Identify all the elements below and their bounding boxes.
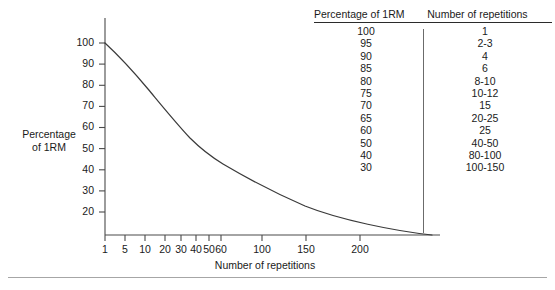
- table-column-divider: [423, 29, 424, 233]
- y-axis-title: Percentage of 1RM: [10, 128, 88, 153]
- y-tick-label-30: 30: [68, 185, 94, 196]
- figure-1rm-repetitions: 100 90 80 70 60 50 40 30 20 1 5 10 20 30…: [0, 0, 555, 290]
- cell-repetitions: 15: [418, 99, 552, 111]
- y-tick-label-90: 90: [68, 58, 94, 69]
- y-tick-marks: [99, 43, 105, 212]
- cell-percentage: 50: [314, 137, 418, 149]
- y-axis-title-line-2: of 1RM: [10, 141, 88, 154]
- table-row: 50 40-50: [314, 137, 552, 149]
- table-row: 40 80-100: [314, 149, 552, 161]
- x-tick-label-60: 60: [206, 244, 236, 255]
- table-row: 85 6: [314, 62, 552, 74]
- cell-repetitions: 10-12: [418, 87, 552, 99]
- cell-percentage: 85: [314, 62, 418, 74]
- table-row: 65 20-25: [314, 112, 552, 124]
- cell-percentage: 80: [314, 75, 418, 87]
- cell-repetitions: 8-10: [418, 75, 552, 87]
- x-tick-label-100: 100: [247, 244, 277, 255]
- figure-bottom-rule: [8, 277, 547, 278]
- x-tick-label-150: 150: [291, 244, 321, 255]
- cell-repetitions: 20-25: [418, 112, 552, 124]
- table-header-repetitions: Number of repetitions: [421, 8, 552, 21]
- cell-percentage: 40: [314, 149, 418, 161]
- cell-repetitions: 6: [418, 62, 552, 74]
- y-axis-title-line-1: Percentage: [10, 128, 88, 141]
- table-header-percentage: Percentage of 1RM: [314, 8, 421, 21]
- x-tick-label-200: 200: [345, 244, 375, 255]
- cell-repetitions: 4: [418, 50, 552, 62]
- cell-percentage: 65: [314, 112, 418, 124]
- cell-percentage: 90: [314, 50, 418, 62]
- table-row: 80 8-10: [314, 75, 552, 87]
- cell-repetitions: 2-3: [418, 37, 552, 49]
- cell-percentage: 70: [314, 99, 418, 111]
- table-row: 95 2-3: [314, 37, 552, 49]
- x-tick-marks: [105, 235, 360, 241]
- y-tick-label-80: 80: [68, 79, 94, 90]
- cell-percentage: 30: [314, 161, 418, 173]
- table-row: 60 25: [314, 124, 552, 136]
- rm-reference-table: Percentage of 1RM Number of repetitions …: [314, 8, 552, 174]
- y-tick-label-100: 100: [68, 37, 94, 48]
- cell-repetitions: 40-50: [418, 137, 552, 149]
- table-row: 100 1: [314, 25, 552, 37]
- cell-repetitions: 100-150: [418, 161, 552, 173]
- y-tick-label-20: 20: [68, 206, 94, 217]
- cell-percentage: 60: [314, 124, 418, 136]
- cell-repetitions: 1: [418, 25, 552, 37]
- cell-repetitions: 80-100: [418, 149, 552, 161]
- table-header-row: Percentage of 1RM Number of repetitions: [314, 8, 552, 23]
- cell-repetitions: 25: [418, 124, 552, 136]
- table-row: 75 10-12: [314, 87, 552, 99]
- cell-percentage: 95: [314, 37, 418, 49]
- y-tick-label-40: 40: [68, 164, 94, 175]
- table-row: 70 15: [314, 99, 552, 111]
- table-row: 90 4: [314, 50, 552, 62]
- cell-percentage: 100: [314, 25, 418, 37]
- y-tick-label-70: 70: [68, 100, 94, 111]
- table-body: 100 1 95 2-3 90 4 85 6 80 8-10 75 10-12: [314, 23, 552, 174]
- cell-percentage: 75: [314, 87, 418, 99]
- x-axis-title: Number of repetitions: [150, 259, 380, 271]
- table-row: 30 100-150: [314, 161, 552, 173]
